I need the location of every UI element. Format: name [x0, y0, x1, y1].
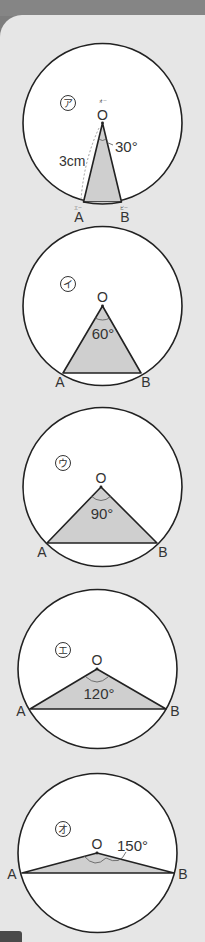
angle-label-o: 150° [117, 837, 148, 854]
figure-o: オ O 150° A B [7, 774, 187, 933]
center-label-e: O [92, 652, 103, 668]
figure-marker-i: イ [63, 279, 73, 290]
center-point-u [100, 486, 103, 489]
point-a-label-e: A [16, 703, 26, 719]
figure-a: ア オー O 30° 3cm エー A ビー B [23, 44, 182, 226]
center-point-i [101, 305, 104, 308]
angle-label-i: 60° [92, 325, 115, 342]
point-b-label-e: B [170, 703, 179, 719]
center-label-u: O [96, 470, 107, 486]
circle-triangles-diagram: ア オー O 30° 3cm エー A ビー B イ O 60° A B ウ O… [0, 0, 205, 942]
radius-label-a: 3cm [59, 153, 85, 169]
angle-label-e: 120° [83, 685, 114, 702]
figure-marker-u: ウ [58, 458, 68, 469]
angle-label-u: 90° [91, 505, 114, 522]
page-tab-marker [0, 931, 22, 942]
point-b-label-u: B [158, 544, 167, 560]
center-point-o [96, 852, 99, 855]
figure-marker-e: エ [58, 645, 68, 656]
figure-u: ウ O 90° A B [23, 408, 182, 567]
point-a-label-o: A [7, 866, 17, 882]
center-ruby-a: オー [99, 99, 107, 104]
arc-ab-a [84, 202, 122, 204]
point-b-label-i: B [141, 374, 150, 390]
point-a-label-u: A [37, 544, 47, 560]
center-point-e [96, 668, 99, 671]
point-b-label-a: B [120, 209, 129, 225]
figure-marker-a: ア [63, 98, 73, 109]
figure-e: エ O 120° A B [16, 590, 179, 749]
angle-label-a: 30° [115, 138, 138, 155]
center-label-a: O [97, 107, 108, 123]
point-b-label-o: B [178, 866, 187, 882]
point-a-label-i: A [55, 374, 65, 390]
center-label-i: O [97, 289, 108, 305]
point-a-label-a: A [74, 209, 84, 225]
center-label-o: O [92, 836, 103, 852]
figure-marker-o: オ [58, 824, 68, 835]
figure-i: イ O 60° A B [23, 227, 182, 391]
